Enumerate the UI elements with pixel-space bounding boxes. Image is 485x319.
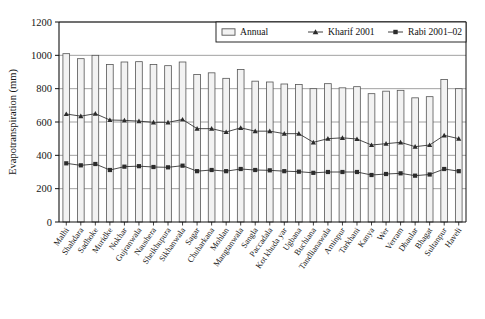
legend-label-rabi: Rabi 2001–02 [408,26,462,37]
legend-label-kharif: Kharif 2001 [328,26,375,37]
bar-25 [426,97,433,222]
rabi-marker-17 [311,171,315,175]
rabi-marker-20 [355,170,359,174]
rabi-marker-23 [398,171,402,175]
legend-swatch-annual [222,29,235,35]
rabi-marker-3 [108,168,112,172]
bar-24 [412,98,419,222]
bar-6 [150,65,157,223]
rabi-marker-11 [224,169,228,173]
x-tick-label-27: Haveli [443,225,464,249]
rabi-marker-16 [297,170,301,174]
chart-canvas: 020040060080010001200 MalhiShahdaraSadho… [0,0,485,319]
chart-legend: AnnualKharif 2001Rabi 2001–02 [216,22,466,42]
bar-20 [354,87,361,222]
x-axis-ticks: MalhiShahdaraSadhokeMuridkeNokharGujranw… [52,222,464,271]
y-axis-title: Evapotranspiration (mm) [7,69,19,175]
rabi-marker-26 [442,167,446,171]
y-tick-label-1000: 1000 [31,50,52,61]
rabi-marker-6 [151,165,155,169]
bar-27 [455,89,462,222]
y-axis-ticks: 020040060080010001200 [31,17,59,228]
rabi-marker-1 [79,163,83,167]
rabi-marker-15 [282,169,286,173]
rabi-marker-27 [457,169,461,173]
rabi-marker-25 [428,172,432,176]
y-tick-label-400: 400 [36,150,52,161]
bar-18 [325,84,332,222]
y-tick-label-600: 600 [36,117,52,128]
bar-8 [179,62,186,222]
bar-2 [92,55,99,222]
y-tick-label-200: 200 [36,183,52,194]
rabi-marker-2 [93,162,97,166]
bar-26 [441,80,448,223]
bar-21 [368,94,375,222]
bar-17 [310,89,317,222]
bar-3 [107,65,114,223]
bar-11 [223,78,230,222]
rabi-marker-0 [64,161,68,165]
bar-0 [63,54,70,222]
legend-marker-rabi [393,30,397,34]
bar-4 [121,62,128,222]
rabi-marker-8 [180,164,184,168]
bar-12 [237,70,244,223]
rabi-marker-14 [268,168,272,172]
rabi-marker-12 [239,167,243,171]
rabi-marker-21 [369,173,373,177]
bar-7 [165,66,172,222]
grid-lines [59,22,466,189]
rabi-marker-24 [413,174,417,178]
y-tick-label-1200: 1200 [31,17,52,28]
rabi-marker-22 [384,172,388,176]
y-axis-title-text: Evapotranspiration (mm) [7,69,19,175]
x-tick-label-21: Kanya [356,226,376,249]
rabi-marker-5 [137,164,141,168]
bar-22 [383,91,390,222]
rabi-marker-19 [340,170,344,174]
rabi-marker-13 [253,168,257,172]
bar-23 [397,90,404,222]
annual-bar-series [63,54,462,222]
rabi-marker-9 [195,169,199,173]
y-tick-label-0: 0 [47,217,52,228]
bar-19 [339,88,346,222]
rabi-marker-10 [210,168,214,172]
bar-15 [281,84,288,222]
rabi-marker-18 [326,170,330,174]
rabi-marker-7 [166,165,170,169]
bar-1 [77,59,84,222]
legend-label-annual: Annual [240,26,269,37]
bar-14 [266,82,273,222]
bar-10 [208,73,215,222]
evapotranspiration-chart-figure: 020040060080010001200 MalhiShahdaraSadho… [0,0,485,319]
y-tick-label-800: 800 [36,83,52,94]
bar-5 [136,62,143,222]
bar-13 [252,81,259,222]
bar-16 [296,85,303,223]
bar-9 [194,75,201,223]
rabi-marker-4 [122,165,126,169]
